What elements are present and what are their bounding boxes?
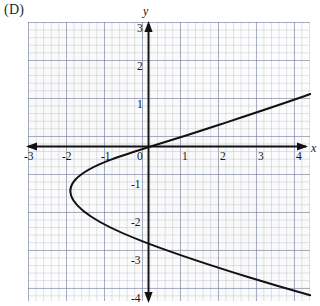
y-tick-label--3: -3: [131, 254, 141, 266]
parabola-curve: [70, 94, 310, 295]
plot-svg: [0, 0, 320, 306]
x-axis-label: x: [311, 141, 316, 156]
y-tick-label-2: 2: [137, 60, 143, 72]
graph-figure: (D) -3 -2 -1 0 1 2 3 4 3 2 1 -1 -2 -3 -4…: [0, 0, 320, 306]
y-tick-label-1: 1: [137, 98, 143, 110]
y-tick-label--1: -1: [131, 178, 141, 190]
x-tick-label-0: 0: [137, 150, 143, 162]
y-tick-label--2: -2: [131, 216, 141, 228]
x-tick-label-1: 1: [182, 150, 188, 162]
y-tick-label-3: 3: [137, 22, 143, 34]
x-tick-label--2: -2: [62, 150, 72, 162]
y-axis: [144, 21, 152, 303]
x-tick-label-3: 3: [258, 150, 264, 162]
x-tick-label--1: -1: [101, 150, 111, 162]
x-tick-label-2: 2: [220, 150, 226, 162]
y-axis-label: y: [143, 4, 148, 19]
y-tick-label--4: -4: [131, 292, 141, 304]
x-tick-label-4: 4: [296, 150, 302, 162]
x-tick-label--3: -3: [24, 150, 34, 162]
